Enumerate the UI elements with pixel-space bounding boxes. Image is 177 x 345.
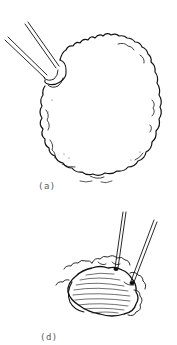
forceps-icon [115, 212, 157, 282]
panel-a-drawing [5, 22, 161, 183]
panel-label-a: (a) [38, 181, 56, 191]
forceps-icon [5, 22, 59, 80]
tissue-bump [45, 60, 66, 85]
striated-tissue-outline [68, 267, 138, 317]
panel-label-d: (d) [40, 332, 58, 342]
panel-d-drawing [56, 212, 157, 316]
surrounding-tissue-outline [64, 260, 92, 269]
tissue-mass-outline [40, 34, 161, 176]
illustration [0, 0, 177, 345]
tissue-speckles [48, 100, 141, 161]
